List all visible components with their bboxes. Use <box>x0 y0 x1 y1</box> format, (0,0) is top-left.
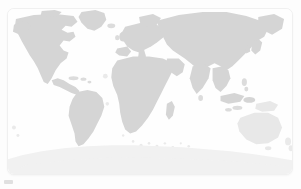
map-viewport[interactable]: world-map <box>8 9 292 174</box>
region-central-america <box>52 78 80 95</box>
region-indonesia <box>221 93 256 112</box>
brand-watermark <box>4 180 16 184</box>
region-greenland <box>79 10 107 31</box>
app-root: world-map <box>0 0 301 189</box>
brand-swatch-icon <box>4 180 13 184</box>
region-sri-lanka <box>198 95 203 101</box>
region-new-guinea <box>255 101 278 112</box>
world-map-graphic <box>8 9 292 174</box>
region-caribbean <box>69 76 92 83</box>
region-southeast-asia <box>213 66 231 92</box>
region-british-isles <box>115 32 127 42</box>
region-philippines <box>242 78 249 91</box>
region-iberia <box>115 47 131 57</box>
region-madagascar <box>166 101 175 120</box>
region-africa <box>111 56 173 133</box>
region-south-america <box>69 90 105 146</box>
world-map-card[interactable]: world-map <box>7 8 293 175</box>
region-new-zealand <box>285 137 292 151</box>
region-iceland <box>107 23 115 28</box>
region-australia <box>237 113 282 145</box>
region-tasmania <box>265 146 271 150</box>
region-india <box>190 64 211 94</box>
